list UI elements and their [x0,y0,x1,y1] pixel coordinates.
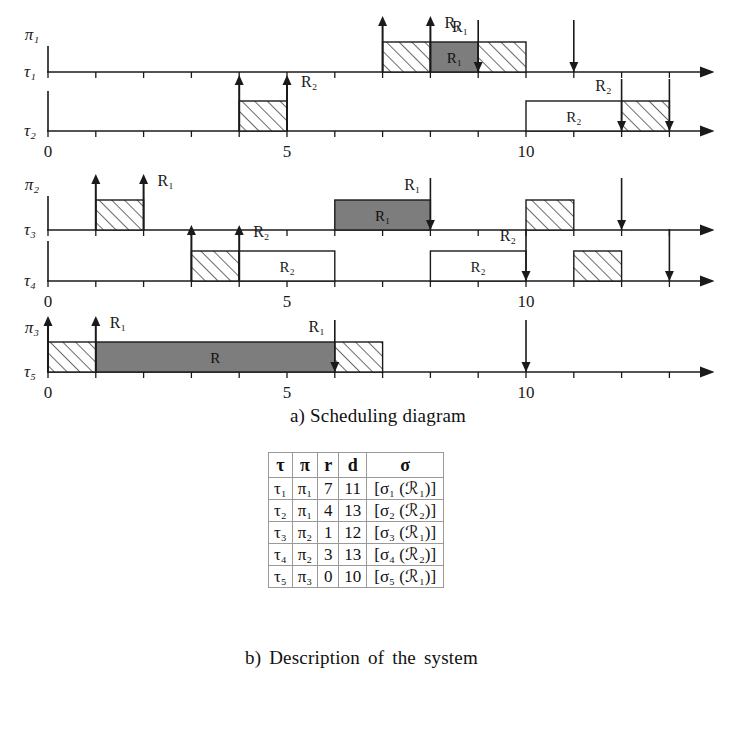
axis-tick-label: 5 [283,383,292,402]
block-label: R₁ [447,50,462,66]
cell-d: 11 [339,478,367,500]
col-header-tau: τ [269,453,293,478]
deadline-resource-label: R₁ [309,318,325,335]
axis-tick-label: 10 [518,383,535,402]
deadline-resource-label: R₂ [500,227,516,244]
release-resource-label: R₁ [158,172,174,189]
processor-label: π₃ [25,318,40,337]
cell-pi: π₃ [292,566,318,588]
processor-label: π₁ [25,25,39,44]
system-description-table: τ π r d σ τ₁π₁711[σ₁ (ℛ₁)]τ₂π₁413[σ₂ (ℛ₂… [268,452,444,588]
cell-sigma: [σ₃ (ℛ₁)] [367,522,444,544]
deadline-arrow-head [617,220,626,230]
table-row: τ₂π₁413[σ₂ (ℛ₂)] [269,500,444,522]
table-row: τ₁π₁711[σ₁ (ℛ₁)] [269,478,444,500]
release-arrow-head [378,16,387,26]
cell-r: 4 [318,500,339,522]
col-header-sigma: σ [367,453,444,478]
execution-block-hatched [96,200,144,230]
execution-block-hatched [191,251,239,281]
task-row-τ₂: 0510R₂R₂R₂τ₂ [24,73,700,161]
cell-sigma: [σ₁ (ℛ₁)] [367,478,444,500]
cell-d: 10 [339,566,367,588]
cell-tau: τ₂ [269,500,293,522]
axis-tick-label: 5 [283,142,292,161]
deadline-arrow-head [569,62,578,72]
task-row-τ₅: 0510RR₁R₁π₃τ₅ [24,314,700,402]
axis-tick-label: 10 [518,292,535,311]
cell-d: 13 [339,544,367,566]
execution-block-hatched [48,342,96,372]
release-arrow-head [44,316,53,326]
task-label: τ₄ [24,271,36,290]
table-header-row: τ π r d σ [269,453,444,478]
deadline-arrow-head [665,271,674,281]
deadline-resource-label: R₂ [595,77,611,94]
block-label: R₂ [566,109,581,125]
cell-tau: τ₅ [269,566,293,588]
cell-r: 3 [318,544,339,566]
task-label: τ₁ [24,62,36,81]
table-row: τ₅π₃010[σ₅ (ℛ₁)] [269,566,444,588]
release-arrow-head [283,75,292,85]
system-description-table-wrap: τ π r d σ τ₁π₁711[σ₁ (ℛ₁)]τ₂π₁413[σ₂ (ℛ₂… [268,452,444,588]
release-arrow-head [426,16,435,26]
release-resource-label: R₁ [110,314,126,331]
col-header-pi: π [292,453,318,478]
col-header-d: d [339,453,367,478]
cell-tau: τ₁ [269,478,293,500]
cell-d: 13 [339,500,367,522]
table-row: τ₄π₂313[σ₄ (ℛ₂)] [269,544,444,566]
table-row: τ₃π₂112[σ₃ (ℛ₁)] [269,522,444,544]
axis-tick-label: 0 [44,142,53,161]
cell-sigma: [σ₄ (ℛ₂)] [367,544,444,566]
release-resource-label: R₂ [301,73,317,90]
cell-sigma: [σ₅ (ℛ₁)] [367,566,444,588]
cell-r: 1 [318,522,339,544]
execution-block-hatched [335,342,383,372]
task-label: τ₂ [24,121,36,140]
task-row-τ₁: R₁R₁R₁π₁τ₁ [24,14,700,81]
axis-tick-label: 5 [283,292,292,311]
scheduling-diagram: R₁R₁R₁π₁τ₁0510R₂R₂R₂τ₂R₁R₁R₁π₂τ₃0510R₂R₂… [0,0,747,420]
col-header-r: r [318,453,339,478]
task-label: τ₃ [24,220,36,239]
release-arrow-head [91,174,100,184]
axis-tick-label: 0 [44,292,53,311]
task-row-τ₄: 0510R₂R₂R₂R₂τ₄ [24,223,700,311]
cell-r: 7 [318,478,339,500]
block-label: R₂ [471,259,486,275]
execution-block-hatched [239,101,287,131]
release-arrow-head [91,316,100,326]
execution-block-hatched [478,42,526,72]
caption-system-description: b) Description of the system [245,645,545,671]
deadline-resource-label: R₁ [404,176,420,193]
task-label: τ₅ [24,362,36,381]
cell-pi: π₂ [292,522,318,544]
cell-sigma: [σ₂ (ℛ₂)] [367,500,444,522]
execution-block-hatched [622,101,670,131]
caption-scheduling-diagram: a) Scheduling diagram [198,405,558,427]
cell-tau: τ₃ [269,522,293,544]
deadline-resource-label: R₁ [452,18,468,35]
cell-pi: π₂ [292,544,318,566]
axis-tick-label: 0 [44,383,53,402]
release-arrow-head [235,75,244,85]
block-label: R [210,350,220,366]
cell-pi: π₁ [292,478,318,500]
scheduling-chart: R₁R₁R₁π₁τ₁0510R₂R₂R₂τ₂R₁R₁R₁π₂τ₃0510R₂R₂… [0,0,747,420]
cell-pi: π₁ [292,500,318,522]
release-arrow-head [139,174,148,184]
execution-block-hatched [526,200,574,230]
cell-d: 12 [339,522,367,544]
cell-r: 0 [318,566,339,588]
execution-block-hatched [383,42,431,72]
release-resource-label: R₂ [253,223,269,240]
task-row-τ₃: R₁R₁R₁π₂τ₃ [24,172,700,239]
deadline-arrow-head [522,362,531,372]
block-label: R₂ [279,259,294,275]
execution-block-hatched [574,251,622,281]
cell-tau: τ₄ [269,544,293,566]
block-label: R₁ [375,208,390,224]
axis-tick-label: 10 [518,142,535,161]
